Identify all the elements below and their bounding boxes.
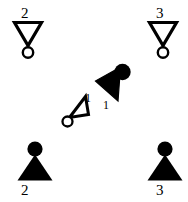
hollow-down-triangle-icon [150,23,177,46]
robot-marker-1 [96,64,131,101]
hollow-down-triangle-icon [15,23,42,46]
robot-label-2: 2 [21,183,29,198]
robot-label-3: 3 [156,183,164,198]
filled-circle-icon [157,141,172,156]
goal-label-1: 1 [85,92,91,104]
robot-label-1: 1 [103,99,109,111]
goal-marker-2 [15,23,42,58]
goal-label-2: 2 [21,6,29,21]
robot-marker-3 [148,141,183,180]
filled-circle-icon [114,64,130,80]
filled-up-triangle-icon [18,155,53,181]
hollow-circle-icon [23,47,33,57]
robot-marker-2 [18,141,53,180]
diagram-canvas: 2 3 1 2 3 1 [0,0,188,202]
filled-up-triangle-icon [148,155,183,181]
goal-marker-3 [150,23,177,58]
hollow-circle-icon [158,47,168,57]
hollow-circle-icon [63,117,73,127]
goal-label-3: 3 [156,6,164,21]
symbol-layer [0,0,188,202]
filled-circle-icon [27,141,42,156]
